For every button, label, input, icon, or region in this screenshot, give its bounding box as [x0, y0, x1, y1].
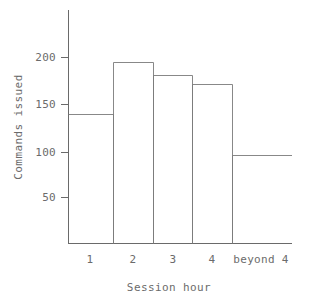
x-tick-label-4: 4	[209, 253, 216, 266]
bar-hour-2	[114, 63, 154, 244]
bar-hour-3	[154, 76, 193, 244]
x-tick-label-1: 1	[87, 253, 94, 266]
y-tick-label-150: 150	[35, 98, 56, 111]
bar-beyond-4	[233, 156, 293, 244]
y-tick-label-100: 100	[35, 146, 56, 159]
chart-container: 50 100 150 200 1 2 3 4 beyond 4 Session …	[0, 0, 326, 304]
y-axis-title: Commands issued	[12, 74, 25, 179]
bar-chart-plot: 50 100 150 200 1 2 3 4 beyond 4 Session …	[0, 0, 326, 304]
x-axis-title: Session hour	[127, 281, 211, 294]
bar-hour-4	[193, 85, 233, 244]
x-tick-label-2: 2	[130, 253, 137, 266]
bar-hour-1	[69, 115, 114, 244]
x-tick-label-beyond-4: beyond 4	[233, 253, 288, 266]
x-tick-label-3: 3	[170, 253, 177, 266]
y-tick-label-200: 200	[35, 51, 56, 64]
y-tick-label-50: 50	[42, 191, 56, 204]
